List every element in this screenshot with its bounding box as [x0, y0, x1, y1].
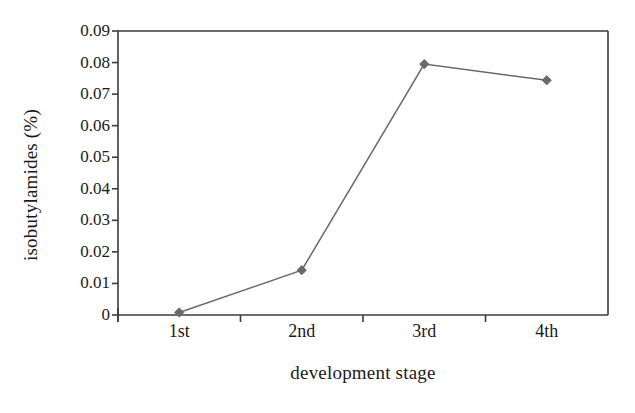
series-line	[179, 64, 547, 312]
data-point-marker	[542, 76, 551, 85]
chart-figure: isobutylamides (%) 0.090.080.070.060.050…	[0, 0, 635, 413]
plot-area	[0, 0, 635, 413]
plot-frame	[118, 31, 608, 315]
data-series	[175, 60, 552, 318]
data-point-marker	[420, 60, 429, 69]
y-axis-ticks	[112, 31, 118, 315]
data-point-marker	[297, 266, 306, 275]
